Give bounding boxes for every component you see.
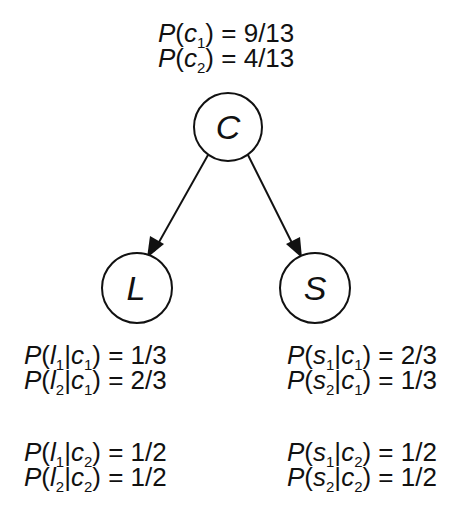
edge-c-to-l: [147, 155, 208, 258]
node-s: S: [280, 253, 350, 323]
edge-c-to-s: [248, 155, 302, 258]
prob-line: P(c2) = 4/13: [158, 46, 294, 71]
node-l: L: [102, 253, 172, 323]
arrowhead-icon: [286, 237, 302, 258]
node-l-label: L: [127, 269, 146, 307]
node-s-label: S: [304, 269, 327, 307]
prob-line: P(s2|c2) = 1/2: [287, 465, 437, 490]
prob-line: P(s2|c1) = 1/3: [287, 368, 437, 393]
cpt-s-given-c1: P(s1|c1) = 2/3 P(s2|c1) = 1/3: [287, 343, 437, 393]
node-c: C: [194, 93, 262, 161]
prior-c-table: P(c1) = 9/13 P(c2) = 4/13: [158, 21, 294, 71]
cpt-s-given-c2: P(s1|c2) = 1/2 P(s2|c2) = 1/2: [287, 440, 437, 490]
node-c-label: C: [216, 108, 241, 146]
cpt-l-given-c2: P(l1|c2) = 1/2 P(l2|c2) = 1/2: [24, 440, 167, 490]
cpt-l-given-c1: P(l1|c1) = 1/3 P(l2|c1) = 2/3: [24, 343, 167, 393]
prob-line: P(l2|c2) = 1/2: [24, 465, 167, 490]
prob-line: P(l2|c1) = 2/3: [24, 368, 167, 393]
